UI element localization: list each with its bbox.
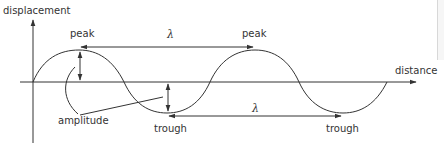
trough-label-1: trough (154, 123, 187, 134)
peak-label-2: peak (242, 28, 267, 39)
wavelength-label-top: λ (166, 28, 174, 41)
x-axis-label: distance (395, 65, 437, 76)
y-axis-label: displacement (3, 5, 70, 16)
amplitude-leader-line (80, 97, 163, 115)
wavelength-label-bottom: λ (251, 102, 259, 115)
trough-label-2: trough (326, 123, 359, 134)
peak-label-1: peak (70, 28, 95, 39)
amplitude-leader-curve (66, 67, 78, 114)
amplitude-label: amplitude (58, 115, 109, 126)
